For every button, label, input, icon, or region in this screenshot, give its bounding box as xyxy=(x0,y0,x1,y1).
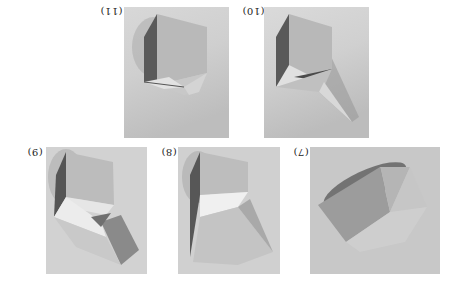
step-label-10: (10) xyxy=(242,5,265,17)
photo-step-10 xyxy=(264,7,369,138)
photo-step-9 xyxy=(46,147,147,274)
photo-step-8 xyxy=(178,147,280,274)
step-label-11: (11) xyxy=(100,5,123,17)
step-label-7: (7) xyxy=(293,146,309,158)
photo-step-7 xyxy=(310,147,440,274)
photo-step-11 xyxy=(124,7,229,138)
step-label-8: (8) xyxy=(161,146,177,158)
step-label-9: (9) xyxy=(27,146,43,158)
